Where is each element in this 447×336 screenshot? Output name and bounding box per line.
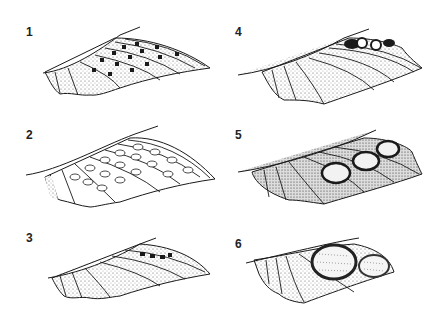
wing-illustration	[0, 112, 223, 224]
panel-6: 6	[224, 224, 447, 336]
ocelli	[312, 245, 389, 279]
panel-1: 1	[0, 0, 223, 112]
panel-3: 3	[0, 224, 223, 336]
panel-4: 4	[224, 0, 447, 112]
panel-5: 5	[224, 112, 447, 224]
wing-illustration	[224, 112, 447, 224]
wing-illustration	[224, 0, 447, 112]
wing-illustration	[0, 0, 223, 112]
panel-2: 2	[0, 112, 223, 224]
wing-illustration	[0, 224, 223, 336]
wing-illustration	[224, 224, 447, 336]
